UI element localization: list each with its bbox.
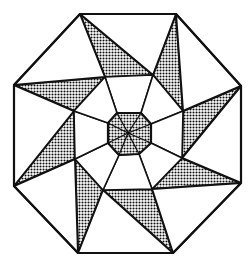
octagon-pinwheel-diagram bbox=[0, 0, 252, 268]
diagram-canvas bbox=[0, 0, 252, 268]
